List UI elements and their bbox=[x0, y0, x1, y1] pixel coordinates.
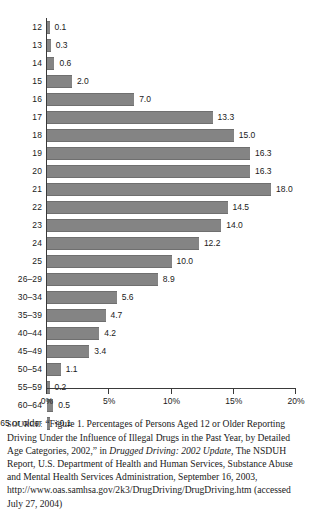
category-label: 12 bbox=[0, 18, 42, 36]
chart-row: 1815.0 bbox=[0, 126, 314, 144]
source-italic-title: Drugged Driving: 2002 Update, bbox=[109, 445, 233, 456]
chart-row: 30–345.6 bbox=[0, 288, 314, 306]
bar bbox=[47, 183, 271, 196]
category-label: 24 bbox=[0, 234, 42, 252]
x-axis-tick bbox=[233, 389, 234, 394]
chart-row: 152.0 bbox=[0, 72, 314, 90]
figure-container: 120.1130.3140.6152.0167.01713.31815.0191… bbox=[0, 0, 314, 519]
chart-row: 120.1 bbox=[0, 18, 314, 36]
value-label: 5.6 bbox=[122, 288, 134, 306]
value-label: 0.2 bbox=[55, 378, 67, 396]
x-axis-tick-label: 20% bbox=[276, 396, 314, 406]
category-label: 25 bbox=[0, 252, 42, 270]
chart-row: 45–493.4 bbox=[0, 342, 314, 360]
bar bbox=[47, 327, 99, 340]
chart-row: 2314.0 bbox=[0, 216, 314, 234]
category-label: 45–49 bbox=[0, 342, 42, 360]
category-label: 40–44 bbox=[0, 324, 42, 342]
value-label: 16.3 bbox=[255, 162, 272, 180]
category-label: 15 bbox=[0, 72, 42, 90]
bar bbox=[47, 93, 134, 106]
value-label: 3.4 bbox=[94, 342, 106, 360]
chart-row: 50–541.1 bbox=[0, 360, 314, 378]
category-label: 17 bbox=[0, 108, 42, 126]
x-axis-tick bbox=[108, 389, 109, 394]
bar bbox=[47, 165, 250, 178]
value-label: 4.7 bbox=[111, 306, 123, 324]
bar bbox=[47, 309, 106, 322]
chart-row: 130.3 bbox=[0, 36, 314, 54]
bar bbox=[47, 111, 213, 124]
category-label: 30–34 bbox=[0, 288, 42, 306]
bar bbox=[47, 237, 199, 250]
x-axis-tick-label: 10% bbox=[152, 396, 192, 406]
bar bbox=[47, 147, 250, 160]
bar bbox=[47, 381, 50, 394]
bar bbox=[47, 129, 234, 142]
value-label: 0.6 bbox=[59, 54, 71, 72]
bar bbox=[47, 57, 54, 70]
source-caption: SOURCE: “Figure 1. Percentages of Person… bbox=[7, 417, 307, 510]
x-axis-tick bbox=[171, 389, 172, 394]
value-label: 2.0 bbox=[77, 72, 89, 90]
chart-row: 140.6 bbox=[0, 54, 314, 72]
value-label: 14.5 bbox=[233, 198, 250, 216]
category-label: 23 bbox=[0, 216, 42, 234]
value-label: 14.0 bbox=[226, 216, 243, 234]
chart-rows: 120.1130.3140.6152.0167.01713.31815.0191… bbox=[0, 18, 314, 432]
y-axis-line bbox=[46, 18, 47, 389]
value-label: 12.2 bbox=[204, 234, 221, 252]
x-axis-tick bbox=[46, 389, 47, 394]
x-axis-tick bbox=[295, 389, 296, 394]
category-label: 20 bbox=[0, 162, 42, 180]
category-label: 14 bbox=[0, 54, 42, 72]
category-label: 19 bbox=[0, 144, 42, 162]
bar bbox=[47, 345, 89, 358]
category-label: 35–39 bbox=[0, 306, 42, 324]
chart-row: 26–298.9 bbox=[0, 270, 314, 288]
chart-row: 1916.3 bbox=[0, 144, 314, 162]
value-label: 4.2 bbox=[104, 324, 116, 342]
value-label: 0.3 bbox=[56, 36, 68, 54]
category-label: 55–59 bbox=[0, 378, 42, 396]
chart-row: 2016.3 bbox=[0, 162, 314, 180]
bar bbox=[47, 255, 172, 268]
value-label: 7.0 bbox=[139, 90, 151, 108]
value-label: 16.3 bbox=[255, 144, 272, 162]
chart-row: 2510.0 bbox=[0, 252, 314, 270]
bar-chart: 120.1130.3140.6152.0167.01713.31815.0191… bbox=[0, 18, 314, 398]
x-axis-tick-label: 5% bbox=[89, 396, 129, 406]
category-label: 26–29 bbox=[0, 270, 42, 288]
value-label: 15.0 bbox=[239, 126, 256, 144]
chart-row: 2118.0 bbox=[0, 180, 314, 198]
bar bbox=[47, 291, 117, 304]
value-label: 13.3 bbox=[218, 108, 235, 126]
bar bbox=[47, 273, 158, 286]
value-label: 18.0 bbox=[276, 180, 293, 198]
bar bbox=[47, 219, 221, 232]
category-label: 16 bbox=[0, 90, 42, 108]
value-label: 0.1 bbox=[55, 18, 67, 36]
value-label: 8.9 bbox=[163, 270, 175, 288]
category-label: 21 bbox=[0, 180, 42, 198]
bar bbox=[47, 75, 72, 88]
category-label: 13 bbox=[0, 36, 42, 54]
value-label: 10.0 bbox=[177, 252, 194, 270]
category-label: 50–54 bbox=[0, 360, 42, 378]
source-label: SOURCE: bbox=[7, 420, 43, 429]
category-label: 22 bbox=[0, 198, 42, 216]
chart-row: 167.0 bbox=[0, 90, 314, 108]
chart-row: 40–444.2 bbox=[0, 324, 314, 342]
chart-row: 55–590.2 bbox=[0, 378, 314, 396]
value-label: 1.1 bbox=[66, 360, 78, 378]
chart-row: 35–394.7 bbox=[0, 306, 314, 324]
x-axis-tick-label: 0% bbox=[27, 396, 67, 406]
bar bbox=[47, 39, 51, 52]
chart-row: 2214.5 bbox=[0, 198, 314, 216]
chart-row: 2412.2 bbox=[0, 234, 314, 252]
bar bbox=[47, 21, 50, 34]
chart-row: 1713.3 bbox=[0, 108, 314, 126]
x-axis-tick-label: 15% bbox=[214, 396, 254, 406]
bar bbox=[47, 363, 61, 376]
bar bbox=[47, 201, 228, 214]
